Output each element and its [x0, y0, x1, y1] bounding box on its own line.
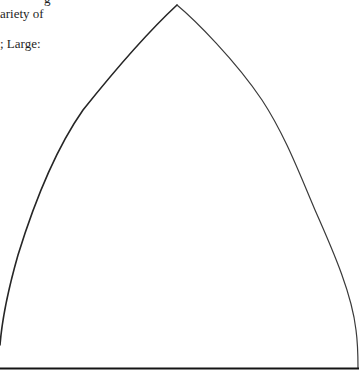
arch-outline-icon [0, 0, 360, 374]
arch-template-figure [0, 0, 360, 374]
